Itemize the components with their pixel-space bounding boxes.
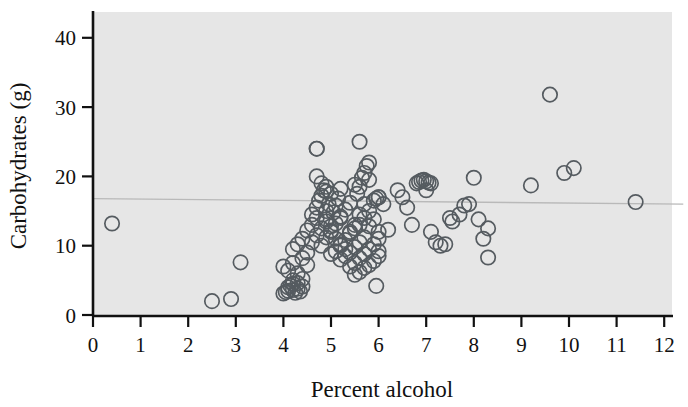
- x-tick-label: 11: [606, 333, 626, 357]
- x-tick-label: 2: [183, 333, 194, 357]
- x-tick-label: 1: [135, 333, 146, 357]
- y-tick-label: 20: [55, 165, 76, 189]
- x-tick-label: 12: [654, 333, 675, 357]
- x-tick-label: 10: [559, 333, 580, 357]
- y-axis-ticks: 010203040: [55, 26, 93, 327]
- x-tick-label: 5: [326, 333, 337, 357]
- x-tick-label: 0: [88, 333, 99, 357]
- y-tick-label: 40: [55, 26, 76, 50]
- x-axis-ticks: 0123456789101112: [88, 316, 675, 357]
- y-tick-label: 0: [66, 304, 77, 328]
- x-axis-title: Percent alcohol: [311, 377, 453, 402]
- x-tick-label: 6: [373, 333, 384, 357]
- plot-panel-background: [93, 12, 672, 315]
- x-tick-label: 4: [278, 333, 289, 357]
- y-tick-label: 10: [55, 234, 76, 258]
- x-tick-label: 7: [421, 333, 432, 357]
- x-tick-label: 3: [231, 333, 242, 357]
- y-axis-title: Carbohydrates (g): [6, 83, 31, 250]
- plot-canvas: 010203040 0123456789101112 Percent alcoh…: [0, 0, 688, 407]
- scatter-plot-figure: 010203040 0123456789101112 Percent alcoh…: [0, 0, 688, 407]
- x-tick-label: 8: [469, 333, 480, 357]
- y-tick-label: 30: [55, 96, 76, 120]
- x-tick-label: 9: [516, 333, 527, 357]
